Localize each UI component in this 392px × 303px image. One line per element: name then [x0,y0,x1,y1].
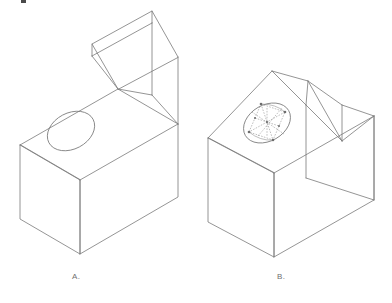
figure-a-group [20,11,178,254]
figure-b-label: B. [277,272,285,281]
figure-b-center-point-mid-left [254,117,256,119]
figure-plate: A. B. [0,0,392,303]
figure-b-center-point-bottom [272,139,275,142]
figure-b-center-point-middle [266,121,268,123]
figure-a-roof-top-face [92,11,178,89]
figure-b-center-point-top [260,103,263,106]
isometric-drawings-svg [0,0,392,303]
figure-a-label: A. [72,272,80,281]
figure-b-center-point-right [284,111,287,114]
figure-b-center-point-left [248,131,251,134]
corner-tick-mark [21,0,26,3]
figure-b-center-point-mid-right [278,125,280,127]
figure-b-group [208,71,374,257]
